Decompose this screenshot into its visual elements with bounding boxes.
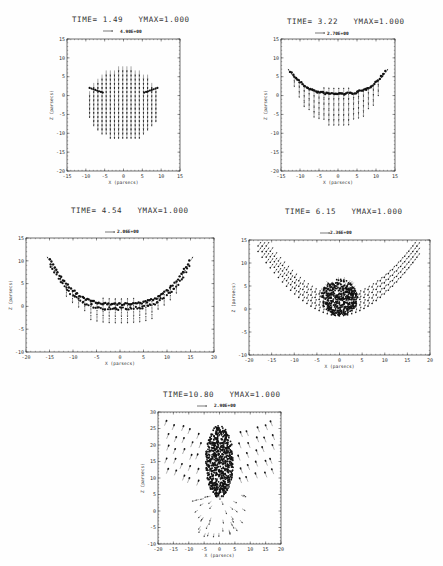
y-tick-label: -10: [147, 541, 156, 547]
x-axis-label: X (parsecs): [109, 180, 139, 185]
x-tick-label: 15: [392, 173, 398, 179]
y-tick-label: -5: [150, 524, 156, 530]
y-tick-label: -15: [56, 149, 65, 155]
y-tick-label: 5: [244, 283, 247, 289]
x-tick-label: -5: [93, 354, 99, 360]
plot-2: -15-10-5051015-20-15-10-5051015X (parsec…: [263, 32, 398, 185]
x-tick-label: 5: [142, 354, 145, 360]
x-tick-label: 10: [158, 173, 164, 179]
x-tick-label: 5: [233, 546, 236, 552]
y-tick-label: 0: [244, 306, 247, 312]
y-tick-label: 5: [62, 73, 65, 79]
x-axis-label: X (parsecs): [105, 361, 135, 366]
plot-5: -20-15-10-505101520-10-5051015202530X (p…: [140, 405, 284, 558]
y-tick-label: -5: [59, 111, 65, 117]
x-tick-label: 10: [164, 354, 170, 360]
x-axis-label: X (parsecs): [323, 180, 353, 185]
x-tick-label: 20: [427, 357, 433, 363]
vector-field: [47, 257, 193, 324]
x-tick-label: -15: [45, 354, 54, 360]
x-tick-label: 0: [118, 354, 121, 360]
y-axis-label: Z (parsecs): [8, 280, 13, 310]
plot-frame: [67, 39, 180, 171]
y-tick-label: -5: [18, 326, 24, 332]
y-tick-label: 10: [59, 55, 65, 61]
y-tick-label: 15: [18, 235, 24, 241]
x-tick-label: 15: [177, 173, 183, 179]
y-tick-label: 10: [273, 55, 279, 61]
x-tick-label: 10: [373, 173, 379, 179]
x-tick-label: -10: [290, 357, 299, 363]
x-tick-label: 10: [382, 357, 388, 363]
x-tick-label: -10: [68, 354, 77, 360]
x-tick-label: 0: [122, 173, 125, 179]
x-tick-label: 5: [361, 357, 364, 363]
x-tick-label: 20: [211, 354, 217, 360]
y-axis-label: Z (parsecs): [263, 90, 268, 120]
x-tick-label: -10: [184, 546, 193, 552]
y-axis-label: Z (parsecs): [231, 283, 236, 313]
x-tick-label: -5: [314, 357, 320, 363]
y-tick-label: 30: [150, 409, 156, 415]
y-tick-label: 5: [21, 280, 24, 286]
y-tick-label: 15: [150, 458, 156, 464]
x-tick-label: -5: [201, 546, 207, 552]
y-tick-label: 20: [150, 442, 156, 448]
x-tick-label: -10: [295, 173, 304, 179]
y-axis-label: Z (parsecs): [49, 90, 54, 120]
y-tick-label: 5: [153, 491, 156, 497]
y-tick-label: 25: [150, 425, 156, 431]
x-tick-label: 5: [141, 173, 144, 179]
vector-field: [257, 242, 420, 317]
x-tick-label: 0: [338, 357, 341, 363]
x-tick-label: 15: [404, 357, 410, 363]
y-tick-label: 0: [276, 92, 279, 98]
y-tick-label: 5: [276, 73, 279, 79]
y-tick-label: -10: [238, 352, 247, 358]
x-tick-label: 15: [263, 546, 269, 552]
y-tick-label: -15: [270, 149, 279, 155]
x-tick-label: -15: [267, 357, 276, 363]
y-tick-label: -10: [15, 349, 24, 355]
y-tick-label: -10: [270, 130, 279, 136]
plot-4: -20-15-10-505101520-10-5051015X (parsecs…: [231, 232, 433, 369]
x-axis-label: X (parsecs): [325, 364, 355, 369]
y-axis-label: Z (parsecs): [140, 463, 145, 493]
y-tick-label: 10: [18, 258, 24, 264]
plot-3: -20-15-10-505101520-10-5051015X (parsecs…: [8, 231, 217, 366]
y-tick-label: -10: [56, 130, 65, 136]
x-tick-label: 20: [278, 546, 284, 552]
x-tick-label: -5: [316, 173, 322, 179]
vector-field: [165, 420, 275, 538]
x-tick-label: 0: [336, 173, 339, 179]
x-tick-label: -20: [153, 546, 162, 552]
x-tick-label: 0: [218, 546, 221, 552]
y-tick-label: 0: [153, 508, 156, 514]
y-tick-label: 10: [150, 475, 156, 481]
plot-1: -15-10-5051015-20-15-10-5051015X (parsec…: [49, 30, 183, 185]
y-tick-label: 15: [59, 36, 65, 42]
vector-field-plots: -15-10-5051015-20-15-10-5051015X (parsec…: [0, 0, 443, 566]
y-tick-label: 0: [62, 92, 65, 98]
y-tick-label: 15: [273, 36, 279, 42]
y-tick-label: -20: [56, 168, 65, 174]
x-tick-label: 5: [355, 173, 358, 179]
x-tick-label: 10: [247, 546, 253, 552]
x-axis-label: X (parsecs): [205, 553, 235, 558]
x-tick-label: 15: [187, 354, 193, 360]
vector-field: [288, 69, 388, 126]
x-tick-label: -20: [244, 357, 253, 363]
x-tick-label: -20: [21, 354, 30, 360]
y-tick-label: 15: [241, 237, 247, 243]
plot-frame: [281, 39, 395, 171]
plot-frame: [26, 238, 214, 352]
y-tick-label: 0: [21, 303, 24, 309]
y-tick-label: 10: [241, 260, 247, 266]
x-tick-label: -15: [276, 173, 285, 179]
vector-field: [89, 66, 159, 138]
x-tick-label: -15: [62, 173, 71, 179]
y-tick-label: -20: [270, 168, 279, 174]
x-tick-label: -10: [81, 173, 90, 179]
y-tick-label: -5: [273, 111, 279, 117]
x-tick-label: -15: [169, 546, 178, 552]
